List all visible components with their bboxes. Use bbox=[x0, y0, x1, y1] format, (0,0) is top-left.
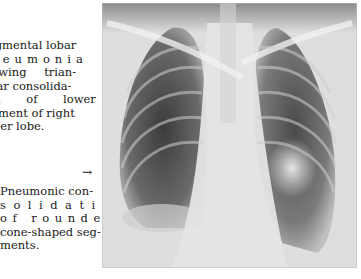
caption-line: solidation bbox=[0, 199, 98, 213]
figure-caption-pneumonic-consolidation: Pneumonic con- solidation of rounded, co… bbox=[0, 185, 98, 253]
figure-caption-segmental-pneumonia: Segmental lobar pneumonia showing trian-… bbox=[0, 39, 98, 134]
caption-line: cone-shaped seg- bbox=[0, 226, 98, 240]
chest-xray-image bbox=[102, 3, 357, 268]
caption-line: segment of right bbox=[0, 107, 98, 121]
caption-line: gular consolida- bbox=[0, 80, 98, 94]
caption-line: pneumonia bbox=[0, 53, 98, 67]
arrow-right-icon: → bbox=[82, 165, 92, 179]
caption-line: showing trian- bbox=[0, 66, 98, 80]
caption-line: Pneumonic con- bbox=[0, 185, 98, 199]
xray-image-icon bbox=[102, 3, 357, 268]
caption-line: Segmental lobar bbox=[0, 39, 98, 53]
caption-line: ments. bbox=[0, 239, 98, 253]
caption-line: tion of lower bbox=[0, 93, 98, 107]
caption-line: upper lobe. bbox=[0, 120, 98, 134]
caption-line: of rounded, bbox=[0, 212, 98, 226]
